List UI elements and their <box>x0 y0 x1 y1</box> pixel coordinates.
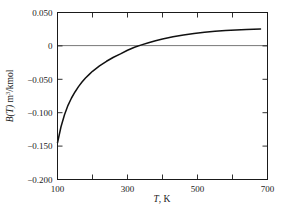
x-axis-title: T, K <box>154 194 171 204</box>
y-tick-labels: 0.0500−0.050−0.100−0.150−0.200 <box>27 8 53 185</box>
plot-background <box>57 12 268 180</box>
y-tick-label--0.05: −0.050 <box>27 75 53 85</box>
x-tick-labels: 100300500700 <box>51 184 275 194</box>
x-tick-label-700: 700 <box>261 184 275 194</box>
y-axis-title: B(T) m3/kmol <box>4 69 16 122</box>
y-axis-arg: (T) <box>5 105 16 117</box>
y-tick-label-0: 0 <box>48 41 53 51</box>
y-axis-unit2: /kmol <box>5 69 15 92</box>
x-tick-label-500: 500 <box>191 184 205 194</box>
y-tick-label--0.2: −0.200 <box>27 175 53 185</box>
x-axis-unit: , K <box>159 194 171 204</box>
y-tick-label-0.05: 0.050 <box>32 8 53 18</box>
chart-figure: 100300500700 0.0500−0.050−0.100−0.150−0.… <box>0 0 284 208</box>
x-tick-label-100: 100 <box>51 184 65 194</box>
x-tick-label-300: 300 <box>121 184 135 194</box>
chart-plot-area: 100300500700 0.0500−0.050−0.100−0.150−0.… <box>0 0 284 208</box>
y-tick-label--0.1: −0.100 <box>27 108 53 118</box>
y-tick-label--0.15: −0.150 <box>27 141 53 151</box>
